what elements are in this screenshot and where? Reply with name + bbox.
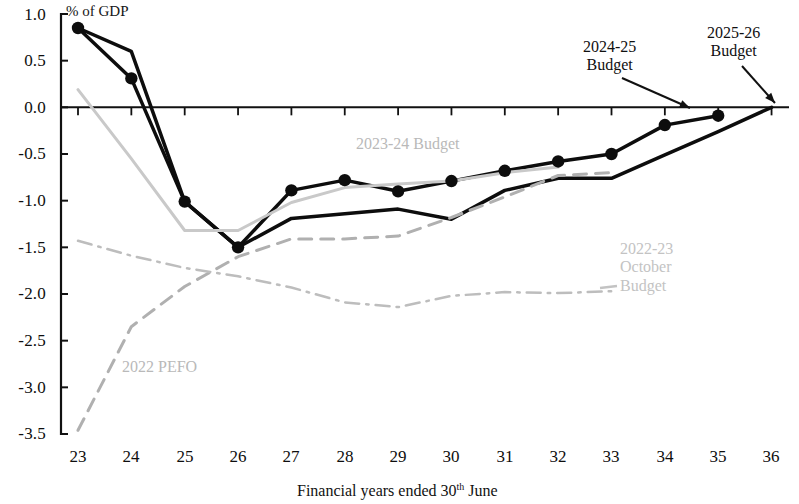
series-label-2024-25-budget: 2024-25 Budget	[583, 38, 636, 75]
series-label-2022-23-october-budget-line3: Budget	[620, 277, 673, 295]
series-label-2022-23-october-budget: 2022-23 October Budget	[620, 240, 673, 295]
series-marker	[499, 165, 511, 177]
series-marker	[552, 155, 564, 167]
y-tick-label: -2.0	[0, 284, 46, 304]
y-tick-label: -1.0	[0, 191, 46, 211]
series-label-2022-23-october-budget-line2: October	[620, 258, 673, 276]
series-marker	[339, 174, 351, 186]
series-marker	[659, 119, 671, 131]
x-tick-label: 27	[271, 447, 311, 467]
x-tick-label: 24	[111, 447, 151, 467]
series-marker	[445, 175, 457, 187]
y-tick-label: -0.5	[0, 144, 46, 164]
y-tick-label: 0.5	[0, 51, 46, 71]
series-line-2022-23-october-budget	[78, 241, 612, 307]
y-tick-label: 1.0	[0, 5, 46, 25]
annotation-arrow-2	[742, 66, 775, 103]
annotation-arrow-1	[622, 78, 690, 108]
x-tick-label: 29	[378, 447, 418, 467]
series-marker	[392, 185, 404, 197]
series-marker	[125, 72, 137, 84]
x-tick-label: 25	[165, 447, 205, 467]
x-tick-label: 30	[431, 447, 471, 467]
y-tick-label: -1.5	[0, 238, 46, 258]
y-tick-label: -3.0	[0, 378, 46, 398]
y-tick-label: 0.0	[0, 98, 46, 118]
series-label-2024-25-budget-line2: Budget	[583, 56, 636, 74]
x-tick-label: 28	[325, 447, 365, 467]
series-marker	[712, 110, 724, 122]
y-axis-unit-label: % of GDP	[66, 3, 129, 20]
x-tick-label: 33	[591, 447, 631, 467]
series-label-2022-pefo: 2022 PEFO	[122, 358, 197, 376]
series-line-2023-24-budget	[78, 90, 558, 231]
annotation-pointer-october-budget	[600, 286, 617, 288]
x-tick-label: 36	[751, 447, 791, 467]
x-axis-title-pre: Financial years ended 30	[297, 482, 457, 499]
y-axis-spine	[61, 14, 67, 434]
series-marker	[179, 195, 191, 207]
x-tick-label: 23	[58, 447, 98, 467]
series-marker	[232, 241, 244, 253]
series-label-2022-23-october-budget-line1: 2022-23	[620, 240, 673, 258]
series-marker	[285, 184, 297, 196]
y-tick-label: -2.5	[0, 331, 46, 351]
chart-figure: 1.0 0.5 0.0 -0.5 -1.0 -1.5 -2.0 -2.5 -3.…	[0, 0, 799, 504]
x-axis-title-post: June	[464, 482, 497, 499]
chart-canvas	[0, 0, 799, 504]
x-tick-label: 31	[485, 447, 525, 467]
x-tick-label: 34	[645, 447, 685, 467]
x-axis-title: Financial years ended 30th June	[297, 481, 498, 500]
y-tick-label: -3.5	[0, 424, 46, 444]
series-marker	[72, 22, 84, 34]
x-tick-label: 35	[698, 447, 738, 467]
series-label-2024-25-budget-line1: 2024-25	[583, 38, 636, 56]
series-label-2025-26-budget: 2025-26 Budget	[707, 24, 760, 61]
series-label-2023-24-budget: 2023-24 Budget	[356, 135, 460, 153]
x-tick-label: 26	[218, 447, 258, 467]
series-label-2025-26-budget-line2: Budget	[707, 42, 760, 60]
x-tick-label: 32	[538, 447, 578, 467]
series-label-2025-26-budget-line1: 2025-26	[707, 24, 760, 42]
series-marker	[605, 148, 617, 160]
